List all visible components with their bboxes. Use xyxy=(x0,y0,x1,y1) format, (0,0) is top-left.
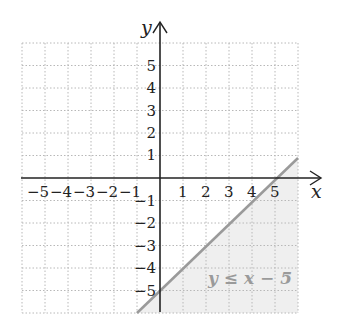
svg-text:1: 1 xyxy=(178,183,188,201)
svg-text:−5: −5 xyxy=(27,183,49,201)
svg-text:2: 2 xyxy=(146,124,156,142)
svg-text:−3: −3 xyxy=(134,237,156,255)
y-axis-label: y xyxy=(140,16,152,38)
svg-text:−5: −5 xyxy=(134,282,156,300)
svg-text:4: 4 xyxy=(146,79,156,97)
svg-text:−3: −3 xyxy=(73,183,95,201)
svg-text:−2: −2 xyxy=(134,214,156,232)
inequality-label: y ≤ x − 5 xyxy=(207,268,292,288)
svg-text:5: 5 xyxy=(270,183,280,201)
svg-text:4: 4 xyxy=(247,183,257,201)
svg-text:2: 2 xyxy=(201,183,211,201)
svg-text:−4: −4 xyxy=(134,259,156,277)
svg-text:−2: −2 xyxy=(96,183,118,201)
x-axis-label: x xyxy=(311,180,322,202)
svg-text:−4: −4 xyxy=(50,183,72,201)
svg-text:3: 3 xyxy=(224,183,234,201)
inequality-graph: x y −5 −4 −3 −2 −1 1 2 3 4 5 5 4 3 2 1 −… xyxy=(0,0,351,336)
svg-text:−1: −1 xyxy=(134,192,156,210)
svg-text:3: 3 xyxy=(146,102,156,120)
svg-text:1: 1 xyxy=(146,146,156,164)
svg-text:5: 5 xyxy=(146,57,156,75)
